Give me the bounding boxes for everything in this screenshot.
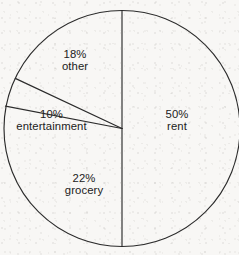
slice-percent-entertainment: 10% (5, 108, 98, 120)
slice-name-other: other (40, 60, 110, 72)
slice-label-other: 18% other (40, 48, 110, 73)
slice-name-entertainment: entertainment (5, 120, 98, 132)
slice-label-rent: 50% rent (146, 108, 208, 133)
slice-name-grocery: grocery (50, 184, 118, 196)
slice-percent-grocery: 22% (50, 172, 118, 184)
slice-percent-other: 18% (40, 48, 110, 60)
slice-label-grocery: 22% grocery (50, 172, 118, 197)
slice-name-rent: rent (146, 120, 208, 132)
slice-percent-rent: 50% (146, 108, 208, 120)
slice-label-entertainment: 10% entertainment (5, 108, 98, 133)
pie-chart: 18% other 10% entertainment 22% grocery … (0, 0, 239, 255)
